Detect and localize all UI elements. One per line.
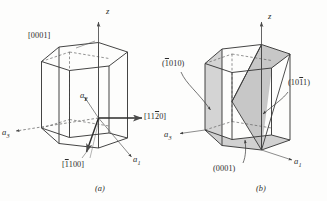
axis-a1-subscript: 1 [137, 159, 140, 166]
crystallography-figure: z [0001] [1120] [1100] a2 a3 a1 (a) z (1… [0, 0, 327, 201]
axis-label-z-b: z [268, 12, 271, 21]
plane-label-0001-b: (0001) [213, 165, 235, 173]
bottom-hexagon-face-a [42, 128, 128, 148]
axis-label-a2-a: a2 [80, 91, 88, 102]
plane-1010-suffix: 010) [169, 59, 184, 68]
direction-1120-suffix: 0] [159, 112, 166, 121]
axis-a3-subscript-b: 3 [168, 134, 171, 141]
crystal-axes-a [16, 97, 132, 157]
axis-label-a3-a: a3 [2, 128, 10, 139]
top-hexagon-face-a [42, 43, 128, 71]
plane-label-1010-b: (1010) [162, 60, 184, 68]
direction-label-1100-a: [1100] [62, 161, 84, 169]
direction-1100-suffix: 100] [69, 160, 84, 169]
plane-label-1011-b: (1011) [288, 79, 310, 87]
plane-1011-prefix: (10 [288, 78, 299, 87]
axis-label-a1-a: a1 [133, 155, 141, 166]
direction-label-1120-a: [1120] [144, 113, 166, 121]
direction-label-0001-a: [0001] [28, 32, 50, 40]
axis-a3-subscript: 3 [6, 132, 9, 139]
axis-label-z-a: z [106, 7, 109, 16]
direction-1120-prefix: [11 [144, 112, 155, 121]
axis-a1-subscript-b: 1 [298, 161, 301, 168]
axis-label-a3-b: a3 [164, 130, 172, 141]
diagram-a-hexagonal-prism [16, 22, 142, 158]
caption-b: (b) [256, 184, 266, 193]
axis-a2-subscript: 2 [84, 95, 87, 102]
plane-1011-suffix: 1) [303, 78, 310, 87]
diagram-b-hexagonal-prism [180, 22, 292, 163]
axis-label-a1-b: a1 [294, 157, 302, 168]
caption-a: (a) [95, 184, 105, 193]
